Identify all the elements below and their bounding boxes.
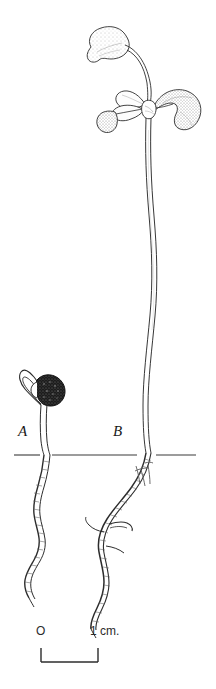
stem-icon xyxy=(148,118,157,453)
root-icon xyxy=(91,453,146,629)
leaf-icon xyxy=(155,90,201,130)
scale-zero-label: O xyxy=(36,624,45,638)
root-icon xyxy=(106,546,124,553)
figure-drawing-canvas xyxy=(0,0,216,689)
stem-icon xyxy=(46,404,50,455)
handwritten-mark xyxy=(135,462,153,486)
specimen-b-root xyxy=(86,453,151,638)
seed-coat-icon xyxy=(36,375,65,406)
specimen-label-a: A xyxy=(18,423,28,440)
leaf-icon xyxy=(97,111,118,132)
specimen-a xyxy=(20,370,65,455)
specimen-a-root xyxy=(25,455,50,607)
root-icon xyxy=(25,455,44,598)
specimen-b-leaf-whorl xyxy=(97,90,201,133)
scale-bar-icon xyxy=(41,648,98,662)
leaf-icon xyxy=(87,27,129,63)
stem-icon xyxy=(143,118,152,453)
stem-icon xyxy=(40,405,44,455)
specimen-label-b: B xyxy=(113,423,123,440)
stem-node-icon xyxy=(142,100,156,118)
botanical-figure: A B O 1 cm. xyxy=(0,0,216,689)
scale-unit-label: 1 cm. xyxy=(90,624,119,638)
specimen-b-stem xyxy=(143,118,157,453)
